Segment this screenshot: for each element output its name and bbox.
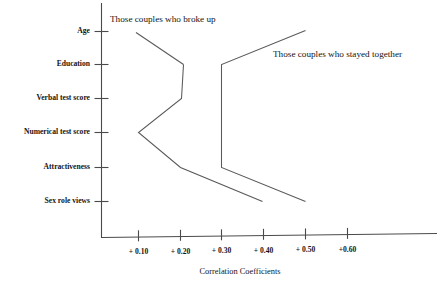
y-axis-label-attractiveness: Attractiveness: [44, 162, 90, 171]
chart-plot-area: Age Education Verbal test score Numerica…: [0, 0, 441, 281]
correlation-coefficients-chart: Age Education Verbal test score Numerica…: [0, 0, 441, 281]
y-axis-label-numerical-test-score: Numerical test score: [24, 127, 91, 136]
y-axis-labels: Age Education Verbal test score Numerica…: [24, 26, 91, 205]
x-axis-label-010: + 0.10: [129, 247, 149, 256]
x-axis-label-020: + 0.20: [171, 247, 191, 256]
x-axis-label-030: + 0.30: [212, 246, 232, 255]
chart-axes: [102, 3, 438, 238]
x-axis-title: Correlation Coefficients: [199, 267, 280, 276]
series-line-broke-up: [139, 65, 263, 202]
leader-line-broke-up: [136, 33, 184, 65]
y-axis-label-education: Education: [57, 59, 91, 68]
x-axis-label-040: + 0.40: [254, 246, 274, 255]
annotation-stayed-together: Those couples who stayed together: [273, 49, 402, 59]
y-axis-label-verbal-test-score: Verbal test score: [36, 93, 90, 102]
x-axis-label-060: +0.60: [339, 245, 357, 254]
x-axis-label-050: + 0.50: [296, 245, 316, 254]
annotation-broke-up: Those couples who broke up: [110, 14, 216, 24]
y-axis-label-age: Age: [77, 26, 90, 35]
y-axis-label-sex-role-views: Sex role views: [45, 196, 90, 205]
x-axis-labels: + 0.10 + 0.20 + 0.30 + 0.40 + 0.50 +0.60: [129, 245, 357, 256]
